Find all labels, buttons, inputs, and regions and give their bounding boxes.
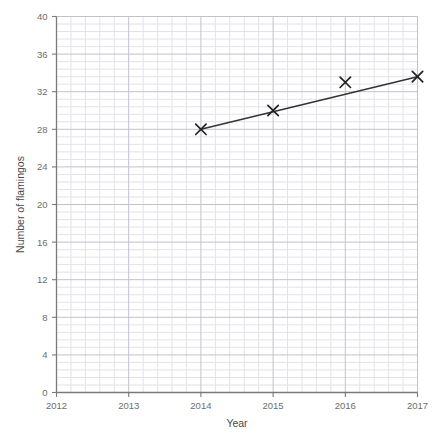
flamingos-line-chart: 201220132014201520162017 048121620242832… — [0, 0, 437, 437]
y-tick-label: 12 — [37, 274, 48, 285]
x-axis-title: Year — [226, 417, 248, 429]
chart-background — [0, 0, 437, 437]
x-tick-label: 2012 — [46, 400, 67, 411]
y-tick-label: 28 — [37, 124, 48, 135]
y-tick-label: 32 — [37, 86, 48, 97]
x-tick-label: 2014 — [190, 400, 211, 411]
y-tick-label: 4 — [42, 349, 47, 360]
y-tick-label: 40 — [37, 11, 48, 22]
y-tick-label: 24 — [37, 161, 48, 172]
y-tick-label: 0 — [42, 387, 47, 398]
y-axis-title: Number of flamingos — [14, 156, 26, 253]
y-tick-label: 20 — [37, 199, 48, 210]
x-tick-label: 2016 — [335, 400, 356, 411]
y-tick-label: 8 — [42, 312, 47, 323]
x-tick-label: 2015 — [263, 400, 284, 411]
y-tick-label: 36 — [37, 49, 48, 60]
y-tick-label: 16 — [37, 237, 48, 248]
x-tick-label: 2017 — [407, 400, 428, 411]
x-tick-label: 2013 — [118, 400, 139, 411]
chart-container: 201220132014201520162017 048121620242832… — [0, 0, 437, 437]
